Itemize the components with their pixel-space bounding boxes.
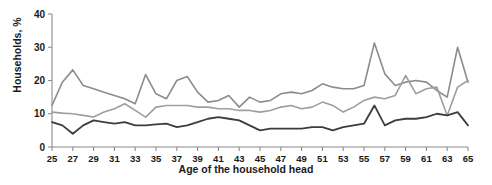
plot-area: 0102030402527293133353739414345474951535…: [0, 0, 492, 185]
y-tick-label: 0: [39, 142, 45, 153]
y-tick-label: 40: [34, 9, 46, 20]
line-chart: Households, % 01020304025272931333537394…: [0, 0, 492, 185]
x-axis-label: Age of the household head: [0, 163, 492, 175]
series-lower-line: [52, 105, 468, 133]
y-tick-label: 30: [34, 42, 46, 53]
y-tick-label: 20: [34, 75, 46, 86]
y-tick-label: 10: [34, 108, 46, 119]
